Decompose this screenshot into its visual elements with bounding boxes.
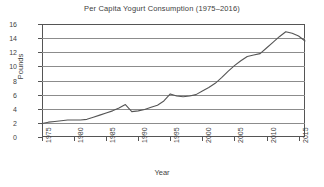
y-tick-label: 10	[0, 63, 17, 70]
x-axis-title: Year	[0, 168, 324, 177]
x-tick-mark	[234, 137, 235, 141]
data-series-line	[42, 24, 305, 137]
y-tick-label: 4	[0, 106, 17, 113]
y-tick-label: 8	[0, 78, 17, 85]
x-tick-mark	[106, 137, 107, 141]
x-tick-mark	[74, 137, 75, 141]
y-tick-label: 0	[0, 134, 17, 141]
yogurt-consumption-chart: Per Capita Yogurt Consumption (1975–2016…	[0, 0, 324, 187]
yogurt-series-polyline	[42, 32, 305, 124]
y-tick-label: 16	[0, 21, 17, 28]
chart-title: Per Capita Yogurt Consumption (1975–2016…	[0, 4, 324, 13]
x-tick-mark	[42, 137, 43, 141]
x-tick-mark	[202, 137, 203, 141]
y-tick-label: 6	[0, 92, 17, 99]
y-axis-title: Pounds	[16, 37, 25, 97]
y-tick-label: 2	[0, 120, 17, 127]
x-tick-mark	[138, 137, 139, 141]
x-tick-mark	[170, 137, 171, 141]
x-tick-mark	[299, 137, 300, 141]
x-tick-mark	[267, 137, 268, 141]
y-tick-label: 14	[0, 35, 17, 42]
y-tick-label: 12	[0, 49, 17, 56]
